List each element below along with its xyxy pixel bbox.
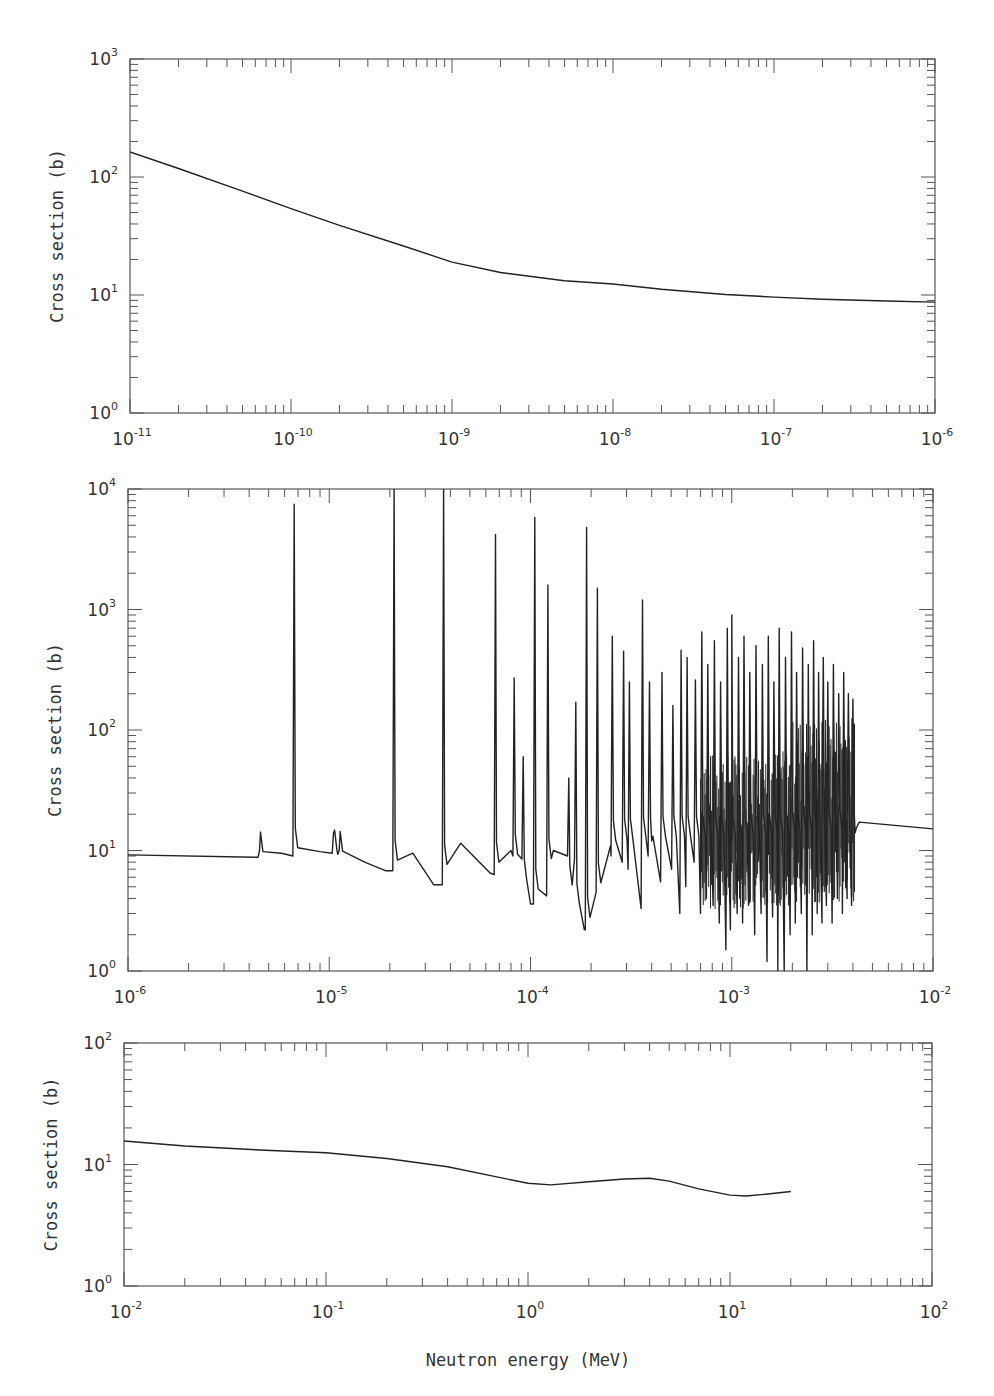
x-tick-label: 10-3 bbox=[717, 984, 750, 1007]
axis-ticks bbox=[124, 1043, 932, 1286]
x-tick-label: 10-7 bbox=[760, 426, 793, 449]
y-tick-label: 100 bbox=[87, 958, 116, 981]
x-tick-label: 101 bbox=[718, 1299, 747, 1322]
axis-ticks bbox=[130, 59, 935, 413]
figure: 10-1110-1010-910-810-710-6100101102103Cr… bbox=[0, 0, 994, 1396]
y-tick-label: 103 bbox=[87, 597, 116, 620]
tick-labels: 10-210-1100101102100101102 bbox=[83, 1030, 948, 1322]
x-tick-label: 10-2 bbox=[110, 1299, 143, 1322]
x-tick-label: 10-2 bbox=[919, 984, 952, 1007]
panel-middle-plot: 10-610-510-410-310-2100101102103104Cross… bbox=[45, 476, 951, 1007]
x-tick-label: 10-5 bbox=[315, 984, 348, 1007]
x-tick-label: 10-8 bbox=[599, 426, 632, 449]
axes-frame bbox=[124, 1043, 932, 1286]
x-tick-label: 10-6 bbox=[921, 426, 954, 449]
y-tick-label: 101 bbox=[89, 282, 118, 305]
cross-section-curve bbox=[130, 152, 935, 302]
x-axis-title: Neutron energy (MeV) bbox=[426, 1350, 631, 1370]
y-axis-title: Cross section (b) bbox=[45, 643, 65, 817]
y-tick-label: 102 bbox=[87, 717, 116, 740]
x-tick-label: 10-1 bbox=[312, 1299, 345, 1322]
x-tick-label: 100 bbox=[516, 1299, 545, 1322]
y-tick-label: 103 bbox=[89, 46, 118, 69]
x-tick-label: 10-6 bbox=[114, 984, 147, 1007]
y-tick-label: 102 bbox=[89, 164, 118, 187]
y-tick-label: 104 bbox=[87, 476, 116, 499]
y-axis-title: Cross section (b) bbox=[47, 149, 67, 323]
y-tick-label: 101 bbox=[83, 1152, 112, 1175]
x-tick-label: 10-9 bbox=[438, 426, 471, 449]
x-tick-label: 10-11 bbox=[112, 426, 152, 449]
y-tick-label: 100 bbox=[89, 400, 118, 423]
x-tick-label: 102 bbox=[920, 1299, 949, 1322]
axes-frame bbox=[130, 59, 935, 413]
y-tick-label: 100 bbox=[83, 1273, 112, 1296]
cross-section-curve bbox=[124, 1141, 791, 1196]
cross-section-curve bbox=[128, 489, 933, 971]
panel-bottom-plot: 10-210-1100101102100101102Cross section … bbox=[41, 1030, 948, 1322]
x-tick-label: 10-10 bbox=[273, 426, 313, 449]
tick-labels: 10-1110-1010-910-810-710-6100101102103 bbox=[89, 46, 953, 449]
panel-top-plot: 10-1110-1010-910-810-710-6100101102103Cr… bbox=[47, 46, 953, 449]
y-tick-label: 102 bbox=[83, 1030, 112, 1053]
y-tick-label: 101 bbox=[87, 838, 116, 861]
y-axis-title: Cross section (b) bbox=[41, 1078, 61, 1252]
x-tick-label: 10-4 bbox=[516, 984, 549, 1007]
